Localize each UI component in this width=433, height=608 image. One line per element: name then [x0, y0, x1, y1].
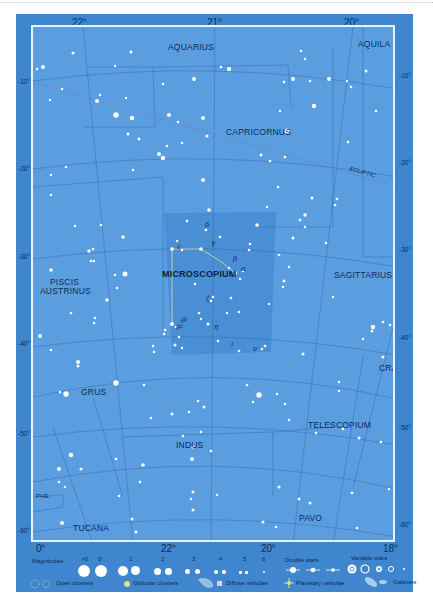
label-austrinus: AUSTRINUS: [40, 286, 91, 296]
legend: Magnitudes: >0 0 1 2 3 4 5 6 Double star…: [16, 555, 413, 592]
star-chart: AQUARIUS AQUILA CAPRICORNUS MICROSCOPIUM…: [31, 25, 395, 542]
dec-label-left-50: -50°: [18, 430, 30, 437]
ra-label-bottom-0h: 0h: [36, 543, 45, 554]
greek-iota: ι: [231, 340, 234, 348]
dec-label-right-50: -50°: [399, 424, 411, 431]
legend-diffuse-nebulae: Diffuse nebulae: [226, 580, 268, 586]
greek-zeta: ζ: [206, 295, 210, 303]
greek-nu: ν: [253, 345, 257, 353]
legend-mag-2: 2: [161, 556, 164, 562]
mag-dot-2a: [154, 568, 161, 575]
mag-dot-6: [263, 571, 265, 573]
label-cra: CRA: [379, 363, 395, 373]
ra-label-bottom-20h: 20h: [261, 543, 275, 554]
greek-gamma: γ: [211, 239, 215, 247]
dec-label-right-10: -10°: [399, 72, 411, 79]
ra-label-bottom-22h: 22h: [161, 543, 175, 554]
legend-variable-stars: Variable stars: [351, 555, 387, 561]
variable-star-icons: [346, 563, 416, 575]
dec-label-right-20: -20°: [399, 159, 411, 166]
dec-label-left-40: -40°: [18, 340, 30, 347]
chart-graphics: [33, 27, 395, 542]
mag-dot-0: [95, 565, 107, 577]
dec-label-left-20: -20°: [18, 165, 30, 172]
diffuse-nebula-icon: [196, 576, 224, 590]
legend-mag-5: 5: [243, 556, 246, 562]
mag-dot-5a: [239, 571, 242, 574]
mag-dot-4b: [222, 570, 226, 574]
label-sagittarius: SAGITTARIUS: [334, 270, 392, 280]
dec-label-left-60: -60°: [18, 527, 30, 534]
galaxy-icon: [363, 575, 389, 589]
label-tucana: TUCANA: [73, 523, 109, 533]
legend-magnitudes-label: Magnitudes:: [32, 558, 65, 564]
dec-label-right-40: -40°: [399, 334, 411, 341]
greek-theta2: θ²: [176, 324, 183, 332]
label-indus: INDUS: [176, 440, 203, 450]
label-microscopium: MICROSCOPIUM: [162, 269, 236, 279]
globular-cluster-icon: [123, 580, 131, 588]
dec-label-right-60: -60°: [399, 521, 411, 528]
dec-label-left-30: -30°: [18, 253, 30, 260]
label-pavo: PAVO: [299, 513, 322, 523]
greek-epsilon: ε: [177, 243, 181, 251]
dec-label-left-10: -10°: [18, 78, 30, 85]
legend-double-stars: Double stars: [285, 557, 319, 563]
double-star-icons: [284, 565, 344, 575]
label-phe: PHE: [36, 493, 49, 499]
legend-mag-0: 0: [98, 556, 101, 562]
legend-mag-4: 4: [219, 556, 222, 562]
ra-label-bottom-18h: 18h: [383, 543, 397, 554]
mag-dot-gt0: [78, 565, 90, 577]
dec-label-right-30: -30°: [399, 246, 411, 253]
legend-mag-6: 6: [262, 556, 265, 562]
open-cluster-icon: [30, 579, 54, 589]
legend-globular-clusters: Globular clusters: [133, 580, 178, 586]
label-telescopium: TELESCOPIUM: [308, 420, 371, 430]
label-grus: GRUS: [81, 387, 106, 397]
legend-mag-3: 3: [192, 556, 195, 562]
dotted-rule: [0, 2, 433, 3]
label-capricornus: CAPRICORNUS: [226, 127, 291, 137]
mag-dot-2b: [165, 568, 172, 575]
legend-open-clusters: Open clusters: [56, 580, 93, 586]
mag-dot-3a: [185, 569, 190, 574]
mag-dot-3b: [195, 569, 200, 574]
greek-eta: η: [214, 323, 218, 331]
legend-mag-1: 1: [129, 556, 132, 562]
legend-planetary-nebulae: Planetary nebulae: [296, 580, 344, 586]
legend-galaxies: Galaxies: [393, 579, 416, 585]
microscopium-region: [164, 212, 276, 355]
mag-dot-5b: [245, 571, 248, 574]
legend-mag-gt0: >0: [81, 556, 88, 562]
mag-dot-4a: [214, 570, 218, 574]
label-aquila: AQUILA: [358, 39, 390, 49]
greek-delta: δ: [205, 221, 209, 229]
label-aquarius: AQUARIUS: [168, 42, 214, 52]
greek-alpha: α: [241, 265, 246, 273]
planetary-nebula-icon: [284, 578, 294, 588]
greek-beta: β: [233, 255, 237, 263]
mag-dot-1b: [131, 566, 140, 575]
mag-dot-1a: [118, 566, 128, 576]
